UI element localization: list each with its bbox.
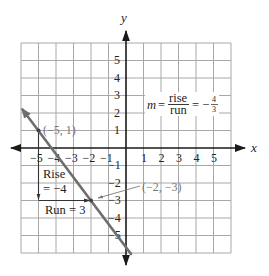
svg-text:−2: −2 bbox=[108, 176, 121, 190]
svg-text:−2: −2 bbox=[83, 151, 96, 165]
svg-text:3: 3 bbox=[114, 88, 120, 102]
svg-text:−1: −1 bbox=[108, 158, 121, 172]
svg-text:m: m bbox=[147, 98, 156, 112]
svg-text:3: 3 bbox=[176, 151, 182, 165]
run-label: Run = 3 bbox=[45, 203, 85, 217]
point-label-neg5-1: (−5, 1) bbox=[43, 123, 76, 137]
point-neg5-1 bbox=[37, 129, 41, 133]
svg-text:3: 3 bbox=[212, 105, 216, 114]
svg-text:1: 1 bbox=[114, 123, 120, 137]
svg-text:= −: = − bbox=[192, 98, 209, 112]
svg-text:run: run bbox=[170, 103, 187, 117]
svg-text:4: 4 bbox=[194, 151, 200, 165]
y-axis-label: y bbox=[119, 10, 127, 25]
svg-text:5: 5 bbox=[211, 151, 217, 165]
svg-text:1: 1 bbox=[141, 151, 147, 165]
slope-formula: m = rise run = − 4 3 bbox=[145, 91, 219, 117]
svg-text:−3: −3 bbox=[108, 193, 121, 207]
svg-text:−4: −4 bbox=[108, 211, 121, 225]
svg-text:=: = bbox=[158, 98, 165, 112]
svg-text:−5: −5 bbox=[30, 151, 43, 165]
rise-label: Rise bbox=[43, 167, 66, 181]
svg-text:2: 2 bbox=[114, 106, 120, 120]
svg-text:5: 5 bbox=[114, 53, 120, 67]
rise-value-label: = −4 bbox=[43, 182, 67, 196]
x-axis-label: x bbox=[250, 140, 257, 155]
point-label-neg2-neg3: (−2, −3) bbox=[142, 180, 182, 194]
svg-text:4: 4 bbox=[212, 95, 216, 104]
svg-text:2: 2 bbox=[159, 151, 165, 165]
svg-text:4: 4 bbox=[114, 71, 120, 85]
svg-text:−3: −3 bbox=[65, 151, 78, 165]
point-neg2-neg3 bbox=[89, 199, 93, 203]
coordinate-plane-figure: x y −5 −4 −3 −2 −1 1 2 3 4 5 1 2 3 4 5 −… bbox=[0, 0, 269, 276]
